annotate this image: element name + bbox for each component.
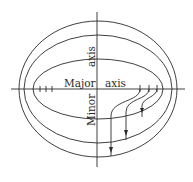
ellipse-axes-diagram: Major axis axis Minor — [0, 0, 193, 182]
flow-lines — [109, 89, 157, 156]
flow-line-inner — [142, 89, 157, 117]
major-axis-label: axis — [105, 77, 126, 89]
arrow-head-icon — [124, 130, 128, 136]
flow-line-outer — [111, 89, 140, 156]
minor-axis-upper-label: axis — [85, 46, 97, 67]
arrow-head-icon — [109, 147, 113, 153]
major-label: Major — [64, 77, 97, 89]
minor-label: Minor — [85, 93, 97, 126]
flow-line-middle — [126, 89, 149, 140]
